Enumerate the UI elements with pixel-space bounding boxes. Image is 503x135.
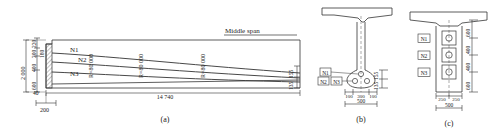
section-b-dim-100-right: 100 (369, 94, 377, 99)
engineering-drawing-figure: N1 N2 N3 R=80 000 R=80 000 R=80 000 Midd… (0, 0, 503, 135)
section-c-dim-400-lower: 400 (465, 63, 471, 72)
section-c-dim-600-bottom: 600 (465, 82, 471, 91)
section-c-dim-250-right: 250 (452, 97, 460, 102)
caption-c: (c) (445, 119, 454, 128)
tendon-label-n1: N1 (70, 46, 79, 54)
section-c-duct-labels: N1 N2 N3 (418, 34, 430, 77)
caption-b: (b) (356, 115, 366, 124)
dim-stack-600: 600 (31, 82, 37, 91)
tendon-label-n2: N2 (78, 56, 87, 64)
section-b-duct-n3 (364, 78, 369, 83)
dim-overall-2000: 2 000 (20, 67, 26, 81)
dim-span-14740: 14 740 (157, 94, 174, 100)
section-b-dim-135: 135 (373, 82, 379, 91)
dim-stack-400: 400 (31, 64, 37, 73)
section-b-dim-500: 500 (357, 98, 366, 104)
panel-elevation: N1 N2 N3 R=80 000 R=80 000 R=80 000 Midd… (20, 27, 300, 124)
section-c-label-n3: N3 (421, 70, 428, 76)
section-b-dim-100-left: 100 (345, 94, 353, 99)
section-b-dim-155: 155 (373, 72, 379, 81)
radius-label-3: R=80 000 (200, 54, 206, 78)
dim-right-135: 135 (288, 82, 294, 91)
tendon-label-n3: N3 (70, 70, 79, 78)
section-b-duct-n2 (352, 78, 357, 83)
right-dimension-stack (294, 66, 300, 88)
anchorage-hatch (46, 44, 52, 88)
section-b-label-n3: N3 (333, 79, 340, 85)
section-c-dim-600-top: 600 (465, 29, 471, 38)
section-b-label-n2: N2 (320, 79, 327, 85)
dim-stack-220: 220 (31, 40, 37, 49)
panel-section-b: N1 N2 N3 155 135 100 300 100 (318, 8, 392, 124)
section-c-dim-500: 500 (445, 102, 454, 108)
section-c-dim-400-upper: 400 (465, 46, 471, 55)
section-b-duct-labels: N1 N2 N3 (318, 68, 358, 85)
dim-web-top-180: 180 (39, 50, 45, 59)
dim-right-155: 155 (288, 70, 294, 79)
section-b-label-n1: N1 (322, 70, 329, 76)
figure-svg: N1 N2 N3 R=80 000 R=80 000 R=80 000 Midd… (0, 0, 503, 135)
section-c-label-n1: N1 (421, 36, 428, 42)
caption-a: (a) (161, 115, 170, 124)
radius-label-1: R=80 000 (88, 54, 94, 78)
dim-pier-200: 200 (40, 107, 49, 113)
panel-section-c: N1 N2 N3 600 400 400 600 250 250 (410, 12, 487, 128)
section-c-top-flange (410, 12, 487, 26)
section-b-top-flange (322, 8, 392, 22)
section-b-vertical-dims (379, 70, 388, 88)
dim-bottom-40: 40 (33, 90, 39, 96)
section-c-label-n2: N2 (421, 53, 428, 59)
middle-span-label: Middle span (225, 27, 260, 35)
radius-label-2: R=80 000 (138, 54, 144, 78)
dim-stack-200: 200 (31, 50, 37, 59)
